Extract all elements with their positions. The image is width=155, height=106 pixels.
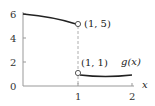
y-tick-label: 4 — [10, 33, 16, 44]
y-tick-label: 0 — [10, 81, 16, 92]
open-point — [75, 70, 80, 75]
curve-left — [23, 14, 76, 24]
x-axis-label: x — [142, 79, 148, 90]
open-point — [75, 21, 80, 26]
curve-right — [80, 75, 132, 77]
chart-svg: 0 2 4 6 1 2 x (1, 5) (1, 1) g(x) — [0, 0, 155, 106]
x-tick-label: 1 — [75, 91, 81, 102]
x-tick-label: 2 — [129, 91, 135, 102]
curve-label: g(x) — [121, 56, 141, 67]
point-label: (1, 1) — [81, 57, 108, 68]
y-tick-label: 2 — [10, 57, 16, 68]
chart: 0 2 4 6 1 2 x (1, 5) (1, 1) g(x) — [0, 0, 155, 106]
point-label: (1, 5) — [84, 18, 111, 29]
y-tick-label: 6 — [10, 9, 16, 20]
